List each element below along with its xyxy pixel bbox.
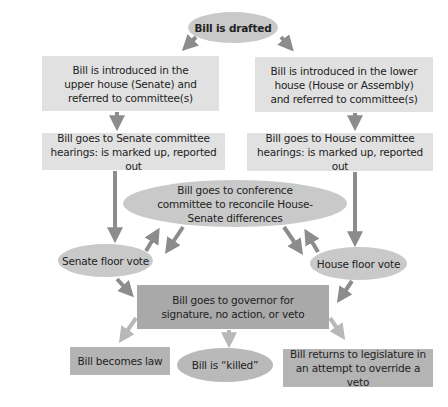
node-lower-house-intro-label: Bill is introduced in the lower house (H…	[265, 64, 423, 106]
node-senate-floor-vote-label: Senate floor vote	[62, 254, 149, 268]
node-governor-label: Bill goes to governor for signature, no …	[149, 293, 317, 321]
arrow-drafted-to-upper	[187, 37, 196, 46]
node-senate-committee-label: Bill goes to Senate committee hearings: …	[46, 131, 221, 173]
node-conference-committee: Bill goes to conference committee to rec…	[123, 180, 347, 227]
arrow-conference-to-house-floor	[284, 227, 299, 249]
node-conference-committee-label: Bill goes to conference committee to rec…	[149, 183, 321, 225]
node-upper-house-intro-label: Bill is introduced in the upper house (S…	[64, 63, 197, 105]
node-house-floor-vote-label: House floor vote	[317, 257, 400, 271]
node-governor: Bill goes to governor for signature, no …	[137, 285, 329, 329]
node-bill-becomes-law-label: Bill becomes law	[78, 354, 163, 368]
arrow-governor-to-law	[123, 318, 136, 337]
node-bill-becomes-law: Bill becomes law	[70, 347, 170, 375]
node-bill-drafted-label: Bill is drafted	[195, 21, 272, 35]
node-house-committee: Bill goes to House committee hearings: i…	[247, 133, 433, 171]
arrow-house-floor-to-governor	[341, 281, 352, 297]
node-senate-floor-vote: Senate floor vote	[58, 244, 153, 277]
node-bill-killed: Bill is “killed”	[177, 348, 273, 382]
node-bill-killed-label: Bill is “killed”	[192, 358, 259, 372]
node-upper-house-intro: Bill is introduced in the upper house (S…	[42, 56, 219, 111]
node-lower-house-intro: Bill is introduced in the lower house (H…	[255, 57, 433, 112]
arrow-conference-to-senate-floor	[169, 227, 183, 248]
arrow-governor-to-override	[330, 318, 341, 334]
node-house-committee-label: Bill goes to House committee hearings: i…	[251, 131, 429, 173]
node-override-veto-label: Bill returns to legislature in an attemp…	[285, 347, 431, 389]
arrow-house-floor-to-conference	[308, 235, 318, 252]
node-bill-drafted: Bill is drafted	[188, 12, 278, 43]
arrow-drafted-to-lower	[281, 37, 289, 46]
node-senate-committee: Bill goes to Senate committee hearings: …	[42, 133, 225, 170]
node-house-floor-vote: House floor vote	[310, 247, 407, 280]
arrow-senate-floor-to-governor	[117, 279, 129, 292]
arrow-senate-floor-to-conference	[146, 234, 156, 251]
node-override-veto: Bill returns to legislature in an attemp…	[283, 349, 433, 387]
